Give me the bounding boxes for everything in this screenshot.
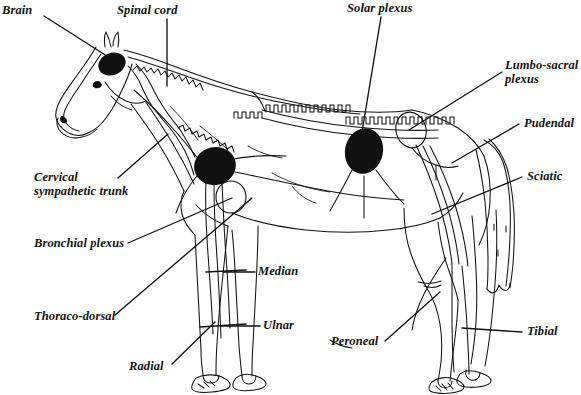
leader-lumbo-sacral-plexus bbox=[409, 72, 502, 130]
label-peroneal: Peroneal bbox=[331, 335, 378, 349]
label-brain: Brain bbox=[2, 4, 32, 18]
anatomy-figure: Brain Spinal cord Solar plexus Lumbo-sac… bbox=[0, 0, 581, 395]
leader-sciatic bbox=[432, 177, 522, 214]
label-tibial: Tibial bbox=[527, 325, 558, 339]
label-radial: Radial bbox=[129, 360, 164, 374]
label-cervical-sympathetic-trunk: Cervical sympathetic trunk bbox=[34, 171, 128, 198]
label-pudendal: Pudendal bbox=[524, 117, 574, 131]
hind-limbs bbox=[330, 208, 497, 393]
leader-peroneal bbox=[385, 292, 440, 341]
leader-solar-plexus bbox=[362, 17, 381, 132]
leader-pudendal bbox=[452, 124, 519, 163]
solar-plexus-mass bbox=[341, 125, 388, 178]
label-lumbo-sacral-plexus: Lumbo-sacral plexus bbox=[505, 59, 578, 86]
label-thoraco-dorsal: Thoraco-dorsal bbox=[34, 310, 115, 324]
label-median: Median bbox=[258, 265, 298, 279]
label-solar-plexus: Solar plexus bbox=[347, 2, 412, 16]
label-bronchial-plexus: Bronchial plexus bbox=[34, 237, 124, 251]
spinal-cord-path bbox=[128, 64, 454, 175]
brachial-plexus-mass bbox=[191, 143, 240, 189]
shoulder-ring bbox=[216, 181, 246, 213]
label-sciatic: Sciatic bbox=[527, 170, 562, 184]
leader-brain bbox=[44, 16, 110, 58]
tail bbox=[476, 139, 514, 293]
leader-thoraco-dorsal bbox=[115, 198, 252, 315]
brain-mass bbox=[95, 49, 129, 80]
leader-radial bbox=[172, 322, 215, 364]
label-spinal-cord: Spinal cord bbox=[117, 4, 178, 18]
leader-tibial bbox=[462, 328, 522, 332]
label-ulnar: Ulnar bbox=[263, 319, 294, 333]
